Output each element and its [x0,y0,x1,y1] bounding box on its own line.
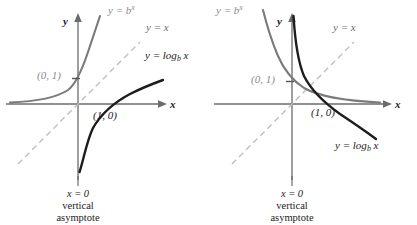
identity-label-right: y = x [333,22,356,33]
point-label-1-0-right: (1, 0) [311,107,335,118]
point-label-1-0-left: (1, 0) [93,110,117,121]
asymptote-caption-left: x = 0 vertical asymptote [28,188,128,223]
exponential-curve-left [10,16,100,103]
logarithm-curve-right [294,16,377,139]
exponential-label-left: y = bx [108,4,135,16]
exponential-label-right: y = bx [216,4,243,16]
asymptote-word-asymptote-right: asymptote [242,212,342,224]
figure-container: y = bx y = x y = logb x (0, 1) (1, 0) y … [0,0,417,225]
identity-label-left: y = x [146,22,169,33]
identity-line-left [18,42,140,164]
logarithm-label-right: y = logb x [335,140,378,153]
asymptote-equation-right: x = 0 [242,188,342,200]
asymptote-caption-right: x = 0 vertical asymptote [242,188,342,223]
y-axis-left [74,13,82,180]
asymptote-equation-left: x = 0 [28,188,128,200]
y-axis-label-left: y [63,16,68,27]
panel-exponential-decay: y = bx y = x y = logb x (0, 1) (1, 0) y … [208,0,417,225]
logarithm-label-left: y = logb x [145,50,188,63]
asymptote-word-vertical-left: vertical [28,200,128,212]
x-axis-label-right: x [395,99,401,110]
y-axis-label-right: y [277,16,282,27]
panel-exponential-growth: y = bx y = x y = logb x (0, 1) (1, 0) y … [0,0,209,225]
x-axis-label-left: x [170,99,176,110]
point-label-0-1-right: (0, 1) [251,74,275,85]
asymptote-word-asymptote-left: asymptote [28,212,128,224]
point-label-0-1-left: (0, 1) [37,70,61,81]
asymptote-word-vertical-right: vertical [242,200,342,212]
logarithm-curve-left [80,80,164,172]
